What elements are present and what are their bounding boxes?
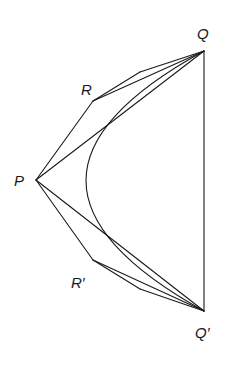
parabola-quadrature-diagram: Q R P R′ Q′ [0,0,231,378]
label-q: Q [197,25,209,42]
label-r-prime: R′ [71,274,86,291]
segment-sub-q [140,51,204,72]
segment-p-rprime [36,180,93,260]
segment-p-r [36,101,93,180]
segment-r-q-sub [93,72,140,101]
parabola-arc [86,51,204,311]
label-r: R [81,81,92,98]
segment-rprime-qprime-sub [93,260,140,289]
label-q-prime: Q′ [195,324,211,341]
segment-p-qprime [36,180,204,311]
segment-p-q [36,51,204,180]
label-p: P [14,172,24,189]
